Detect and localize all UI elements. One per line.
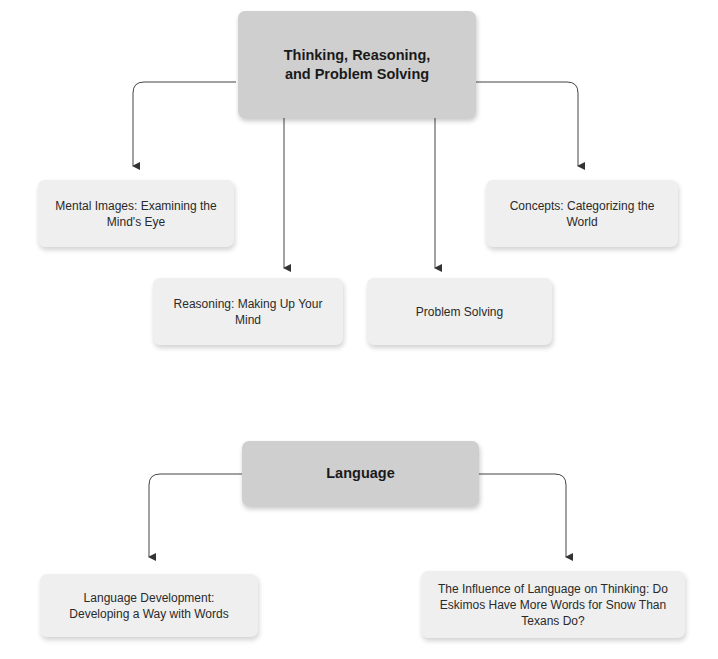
node-influence-of-language: The Influence of Language on Thinking: D… [421, 571, 685, 638]
root-node-label: Thinking, Reasoning, and Problem Solving [278, 46, 436, 84]
root-node-label: Language [326, 464, 394, 483]
node-label: The Influence of Language on Thinking: D… [435, 581, 671, 629]
root-node-thinking: Thinking, Reasoning, and Problem Solving [238, 11, 476, 118]
connector-root-to-mental-images [133, 82, 236, 166]
node-label: Problem Solving [416, 304, 503, 320]
node-language-development: Language Development: Developing a Way w… [40, 574, 258, 637]
node-label: Language Development: Developing a Way w… [62, 590, 236, 622]
node-label: Mental Images: Examining the Mind's Eye [48, 198, 224, 230]
node-label: Concepts: Categorizing the World [502, 198, 662, 230]
connector-language-to-development [149, 474, 242, 557]
node-concepts: Concepts: Categorizing the World [486, 180, 678, 247]
connector-language-to-influence [479, 474, 566, 557]
connector-root-to-concepts [476, 82, 578, 166]
root-node-language: Language [242, 441, 479, 506]
node-reasoning: Reasoning: Making Up Your Mind [153, 278, 343, 345]
node-mental-images: Mental Images: Examining the Mind's Eye [38, 180, 234, 247]
node-problem-solving: Problem Solving [367, 278, 552, 345]
node-label: Reasoning: Making Up Your Mind [169, 296, 327, 328]
